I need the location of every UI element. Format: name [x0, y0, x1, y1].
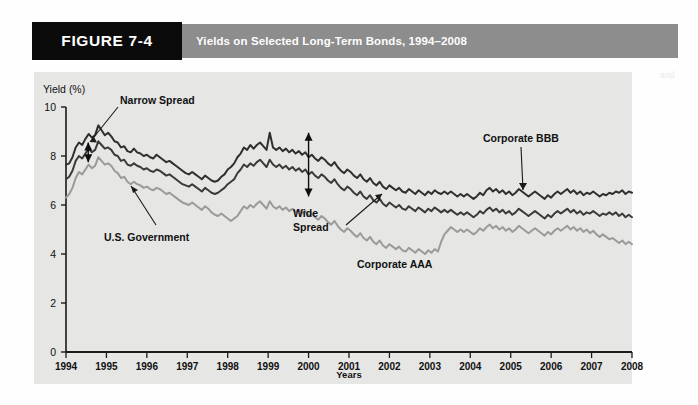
x-tick-label: 2007: [580, 361, 603, 372]
x-tick-label: 2005: [500, 361, 523, 372]
x-tick-label: 1994: [55, 361, 78, 372]
x-tick-label: 2006: [540, 361, 563, 372]
y-tick-label: 2: [50, 297, 56, 309]
marker-wide-spread: [305, 133, 313, 197]
leader-narrow-spread: [90, 107, 118, 142]
x-tick-label: 2008: [621, 361, 644, 372]
x-tick-label: 2003: [419, 361, 442, 372]
annotation-corporate-bbb: Corporate BBB: [483, 132, 559, 144]
x-tick-label: 1995: [95, 361, 118, 372]
annotation-narrow-spread: Narrow Spread: [120, 94, 195, 106]
y-tick-label: 0: [50, 346, 56, 358]
arrowhead-down: [84, 154, 92, 162]
y-tick-label: 6: [50, 199, 56, 211]
arrowhead-up: [84, 143, 92, 151]
chart-svg-wrapper: 0246810 19941995199619971998199920002001…: [0, 0, 698, 405]
x-tick-label: 1996: [136, 361, 159, 372]
x-tick-label: 2002: [378, 361, 401, 372]
y-axis-unit-label: Yield (%): [43, 83, 85, 95]
x-tick-label: 2000: [297, 361, 320, 372]
arrowhead-up: [305, 133, 313, 141]
annotation-wide-spread-line1: Wide: [293, 207, 318, 219]
x-axis-title: Years: [336, 369, 361, 380]
x-tick-label: 1998: [217, 361, 240, 372]
figure-page: the time when interest rates on the bond…: [0, 0, 698, 405]
x-tick-label: 1997: [176, 361, 199, 372]
annotation-us-government: U.S. Government: [104, 231, 190, 243]
y-tick-label: 10: [44, 101, 56, 113]
y-axis-ticks: 0246810: [44, 101, 66, 358]
y-tick-label: 4: [50, 248, 56, 260]
leader-corporate-aaa: [346, 194, 382, 225]
x-tick-label: 1999: [257, 361, 280, 372]
series-line-corporate-aaa: [66, 141, 632, 218]
annotation-wide-spread-line2: Spread: [293, 221, 329, 233]
arrowhead-down: [305, 188, 313, 196]
x-tick-label: 2004: [459, 361, 482, 372]
arrowhead-us-government: [131, 186, 138, 193]
y-tick-label: 8: [50, 150, 56, 162]
bond-yield-line-chart: 0246810 19941995199619971998199920002001…: [0, 0, 698, 405]
annotation-corporate-aaa: Corporate AAA: [357, 258, 433, 270]
